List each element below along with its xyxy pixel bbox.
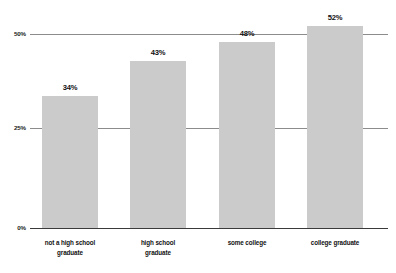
bar-college-graduate: [307, 26, 363, 228]
category-label-line: college graduate: [287, 238, 383, 248]
category-label-some-college: some college: [199, 238, 295, 248]
bar-high-school-graduate: [130, 61, 186, 228]
category-label-high-school-graduate: high school graduate: [110, 238, 206, 258]
category-label-not-a-high-school-graduate: not a high school graduate: [22, 238, 118, 258]
bar-some-college: [219, 42, 275, 228]
y-axis-tick-50: 50%: [0, 31, 26, 37]
category-label-line: graduate: [22, 248, 118, 258]
bar-not-a-high-school-graduate: [42, 96, 98, 228]
category-label-line: some college: [199, 238, 295, 248]
bar-value-some-college: 48%: [219, 30, 275, 38]
category-label-line: not a high school: [22, 238, 118, 248]
bar-value-college-graduate: 52%: [307, 14, 363, 22]
category-label-line: high school: [110, 238, 206, 248]
bar-value-not-a-high-school-graduate: 34%: [42, 84, 98, 92]
bar-value-high-school-graduate: 43%: [130, 49, 186, 57]
bar-chart: 50% 25% 0% 34% 43% 48% 52% not a high sc…: [0, 0, 396, 273]
category-label-college-graduate: college graduate: [287, 238, 383, 248]
x-axis-baseline: [30, 228, 388, 229]
y-axis-tick-25: 25%: [0, 125, 26, 131]
plot-area: 50% 25% 0% 34% 43% 48% 52% not a high sc…: [0, 0, 396, 273]
category-label-line: graduate: [110, 248, 206, 258]
y-axis-tick-0: 0%: [0, 225, 26, 231]
